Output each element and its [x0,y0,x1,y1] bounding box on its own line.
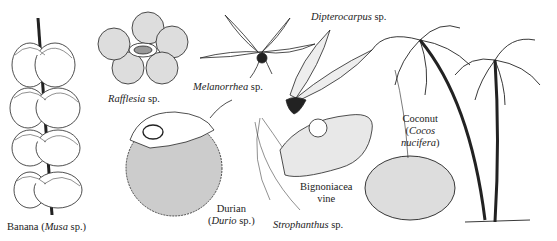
strophanthus-suffix: sp. [331,219,343,230]
banana-common-name: Banana [7,221,39,232]
dipterocarpus-label: Dipterocarpus sp. [311,11,386,23]
banana-bunch-drawing [10,18,82,215]
durian-label: Durian (Durio sp.) [208,203,255,227]
bignoniacea-line1: Bignoniacea [300,181,352,193]
dipterocarpus-genus: Dipterocarpus [311,11,372,22]
rafflesia-suffix: sp. [148,93,160,104]
bignoniacea-line2: vine [300,193,352,205]
banana-genus: Musa [45,221,68,232]
coconut-genus: Cocos [409,125,435,136]
melanorrhea-suffix: sp. [251,81,263,92]
coconut-palm-drawing [365,26,540,222]
melanorrhea-genus: Melanorrhea [193,81,248,92]
botanical-illustration [0,0,557,241]
banana-suffix: sp. [71,221,83,232]
durian-suffix: sp. [239,215,251,226]
dipterocarpus-drawing [286,30,372,114]
bignoniacea-seed-drawing [280,115,372,177]
strophanthus-genus: Strophanthus [273,219,329,230]
rafflesia-label: Rafflesia sp. [108,93,160,105]
coconut-species: nucifera [401,137,436,148]
rafflesia-flower-drawing [98,12,188,84]
durian-genus: Durio [212,215,237,226]
rafflesia-genus: Rafflesia [108,93,145,104]
coconut-common-name: Coconut [401,113,440,125]
strophanthus-label: Strophanthus sp. [273,219,343,231]
durian-drawing [126,100,232,216]
bignoniacea-label: Bignoniacea vine [300,181,352,205]
melanorrhea-drawing [200,15,315,78]
banana-label: Banana (Musa sp.) [7,221,86,233]
durian-common-name: Durian [208,203,255,215]
melanorrhea-label: Melanorrhea sp. [193,81,263,93]
dipterocarpus-suffix: sp. [374,11,386,22]
coconut-label: Coconut (Cocos nucifera) [401,113,440,149]
